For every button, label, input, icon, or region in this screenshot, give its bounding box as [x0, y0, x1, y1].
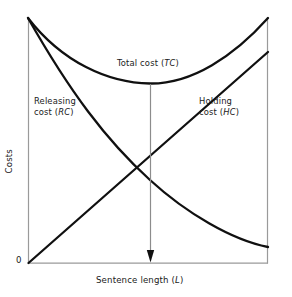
holding-cost-label-prefix: cost (	[199, 107, 223, 117]
releasing-cost-label-symbol: RC	[58, 107, 70, 117]
y-axis-label: Costs	[4, 139, 15, 183]
x-axis-label: Sentence length (L)	[96, 275, 184, 286]
x-axis-label-suffix: )	[180, 275, 184, 285]
holding-cost-label-symbol: HC	[223, 107, 235, 117]
releasing-cost-label-line1: Releasing	[34, 96, 76, 106]
chart-plot-area	[0, 0, 292, 297]
holding-cost-label: Holdingcost (HC)	[199, 96, 239, 118]
origin-label: 0	[16, 255, 22, 266]
x-axis-label-prefix: Sentence length (	[96, 275, 175, 285]
total-cost-label: Total cost (TC)	[117, 58, 179, 69]
holding-cost-label-suffix: )	[236, 107, 239, 117]
releasing-cost-label: Releasingcost (RC)	[34, 96, 76, 118]
dropline-arrowhead-icon	[147, 250, 154, 263]
releasing-cost-label-suffix: )	[70, 107, 73, 117]
total-cost-label-prefix: Total cost (	[117, 58, 164, 68]
cost-curves-chart: Total cost (TC) Releasingcost (RC) Holdi…	[0, 0, 292, 297]
holding-cost-label-line1: Holding	[199, 96, 232, 106]
total-cost-curve	[28, 18, 268, 84]
releasing-cost-label-prefix: cost (	[34, 107, 58, 117]
total-cost-label-symbol: TC	[164, 58, 175, 68]
total-cost-label-suffix: )	[176, 58, 179, 68]
